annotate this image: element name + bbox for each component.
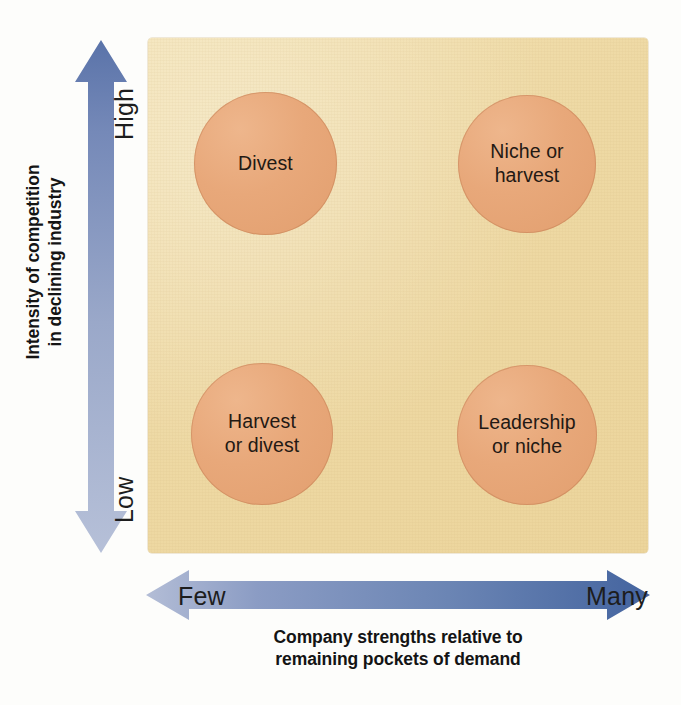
y-axis-title: Intensity of competition in declining in…	[22, 52, 67, 472]
y-axis-title-line1: Intensity of competition	[23, 165, 43, 360]
quadrant-label-bottom-right: Leadershipor niche	[474, 411, 580, 459]
x-axis-few-label: Few	[178, 582, 226, 611]
quadrant-label-line1: Niche or	[490, 140, 563, 162]
y-axis-high-label: High	[110, 88, 139, 140]
x-axis-many-label: Many	[586, 582, 648, 611]
x-axis-title-line2: remaining pockets of demand	[275, 649, 520, 669]
x-axis-title-line1: Company strengths relative to	[274, 627, 523, 647]
axis-arrows	[0, 0, 681, 705]
figure-canvas: Divest Niche orharvest Harvestor divest …	[0, 0, 681, 705]
y-axis-low-label: Low	[110, 477, 139, 523]
quadrant-label-top-right: Niche orharvest	[486, 140, 567, 188]
quadrant-label-bottom-left: Harvestor divest	[221, 410, 304, 458]
quadrant-label-line2: or divest	[225, 434, 300, 456]
quadrant-label-line1: Harvest	[228, 410, 296, 432]
quadrant-label-line2: harvest	[495, 164, 560, 186]
y-axis-title-line2: in declining industry	[45, 177, 65, 346]
quadrant-label-line1: Divest	[238, 152, 293, 174]
quadrant-label-line2: or niche	[492, 435, 562, 457]
quadrant-label-top-left: Divest	[234, 152, 297, 176]
quadrant-label-line1: Leadership	[478, 411, 576, 433]
x-axis-title: Company strengths relative to remaining …	[148, 626, 648, 671]
